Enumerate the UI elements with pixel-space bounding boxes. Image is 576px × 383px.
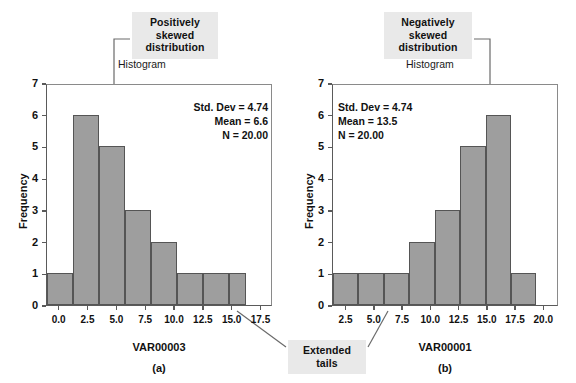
- y-tick-mark: [328, 147, 332, 148]
- histogram-bar: [409, 242, 434, 305]
- histogram-bar: [511, 273, 536, 305]
- y-tick-mark: [42, 274, 46, 275]
- histogram-bar: [125, 210, 151, 305]
- y-tick-label: 6: [310, 109, 324, 121]
- x-tick-mark: [373, 306, 374, 310]
- chart-b-title: Histogram: [406, 58, 454, 70]
- histogram-bar: [203, 273, 229, 305]
- x-tick-mark: [202, 306, 203, 310]
- histogram-bar: [358, 273, 383, 305]
- y-tick-mark: [328, 274, 332, 275]
- x-tick-mark: [260, 306, 261, 310]
- y-tick-label: 1: [310, 267, 324, 279]
- x-tick-mark: [173, 306, 174, 310]
- y-tick-label: 7: [24, 77, 38, 89]
- x-tick-mark: [145, 306, 146, 310]
- chart-b-panel-label: (b): [332, 362, 558, 374]
- x-tick-mark: [543, 306, 544, 310]
- x-tick-label: 17.5: [242, 314, 278, 325]
- y-tick-label: 1: [24, 267, 38, 279]
- histogram-bar: [333, 273, 358, 305]
- y-tick-label: 0: [310, 299, 324, 311]
- chart-b-x-axis-title: VAR00001: [332, 341, 558, 353]
- y-tick-label: 6: [24, 109, 38, 121]
- x-tick-mark: [116, 306, 117, 310]
- chart-a-std-dev: Std. Dev = 4.74: [152, 100, 268, 114]
- chart-a-panel-label: (a): [46, 362, 272, 374]
- y-tick-mark: [42, 179, 46, 180]
- y-tick-mark: [328, 242, 332, 243]
- chart-a-mean: Mean = 6.6: [152, 114, 268, 128]
- x-tick-mark: [87, 306, 88, 310]
- histogram-bar: [99, 146, 125, 305]
- chart-a-n: N = 20.00: [152, 128, 268, 142]
- chart-a-x-axis-title: VAR00003: [46, 341, 272, 353]
- y-tick-mark: [42, 305, 46, 306]
- y-tick-mark: [42, 83, 46, 84]
- chart-b-mean: Mean = 13.5: [338, 114, 458, 128]
- y-tick-mark: [42, 115, 46, 116]
- chart-b-std-dev: Std. Dev = 4.74: [338, 100, 458, 114]
- y-tick-mark: [328, 179, 332, 180]
- y-tick-mark: [42, 210, 46, 211]
- chart-b-n: N = 20.00: [338, 128, 458, 142]
- histogram-bar: [47, 273, 73, 305]
- histogram-bar: [229, 273, 247, 305]
- chart-a-y-axis-title: Frequency: [17, 159, 29, 229]
- histogram-bar: [151, 242, 177, 305]
- x-tick-mark: [345, 306, 346, 310]
- histogram-bar: [177, 273, 203, 305]
- x-tick-mark: [58, 306, 59, 310]
- chart-a-stats: Std. Dev = 4.74 Mean = 6.6 N = 20.00: [152, 100, 268, 142]
- figure-skewed-histograms: Positively skewed distribution Negativel…: [0, 0, 576, 383]
- x-tick-mark: [458, 306, 459, 310]
- histogram-bar: [73, 115, 99, 305]
- x-tick-mark: [514, 306, 515, 310]
- chart-b-stats: Std. Dev = 4.74 Mean = 13.5 N = 20.00: [338, 100, 458, 142]
- y-tick-mark: [328, 210, 332, 211]
- y-tick-mark: [42, 147, 46, 148]
- chart-b-y-axis-title: Frequency: [303, 159, 315, 229]
- y-tick-label: 5: [24, 140, 38, 152]
- x-tick-label: 20.0: [525, 314, 561, 325]
- y-tick-label: 2: [24, 236, 38, 248]
- y-tick-label: 5: [310, 140, 324, 152]
- x-tick-mark: [231, 306, 232, 310]
- histogram-bar: [486, 115, 511, 305]
- histogram-bar: [460, 146, 485, 305]
- chart-panel-a: Histogram 01234567 0.02.55.07.510.012.51…: [0, 0, 288, 383]
- histogram-bar: [384, 273, 409, 305]
- chart-panel-b: Histogram 01234567 2.55.07.510.012.515.0…: [288, 0, 576, 383]
- y-tick-mark: [328, 83, 332, 84]
- x-tick-mark: [401, 306, 402, 310]
- chart-a-title: Histogram: [118, 58, 166, 70]
- histogram-bar: [435, 210, 460, 305]
- y-tick-mark: [328, 115, 332, 116]
- y-tick-label: 0: [24, 299, 38, 311]
- y-tick-label: 7: [310, 77, 324, 89]
- x-tick-mark: [486, 306, 487, 310]
- y-tick-mark: [328, 305, 332, 306]
- y-tick-label: 2: [310, 236, 324, 248]
- x-tick-mark: [430, 306, 431, 310]
- y-tick-mark: [42, 242, 46, 243]
